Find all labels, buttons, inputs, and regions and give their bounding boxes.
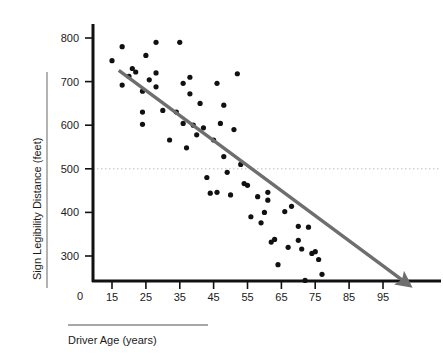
- x-tick-label-55: 55: [241, 291, 253, 303]
- scatter-point: [245, 183, 250, 188]
- x-tick-label-95: 95: [377, 291, 389, 303]
- scatter-point: [208, 191, 213, 196]
- scatter-point: [296, 238, 301, 243]
- scatter-point: [265, 198, 270, 203]
- scatter-point: [302, 278, 307, 283]
- scatter-point: [214, 190, 219, 195]
- scatter-point: [184, 145, 189, 150]
- scatter-point: [306, 225, 311, 230]
- scatter-point: [228, 192, 233, 197]
- x-tick-label-35: 35: [174, 291, 186, 303]
- scatter-point: [255, 194, 260, 199]
- x-tick-label-25: 25: [140, 291, 152, 303]
- y-tick-label-400: 400: [61, 206, 79, 218]
- scatter-point: [289, 204, 294, 209]
- x-tick-label-65: 65: [275, 291, 287, 303]
- y-tick-label-500: 500: [61, 163, 79, 175]
- scatter-point: [187, 91, 192, 96]
- scatter-point: [218, 121, 223, 126]
- scatter-point: [262, 210, 267, 215]
- y-tick-label-800: 800: [61, 32, 79, 44]
- scatter-point: [167, 137, 172, 142]
- scatter-point: [316, 257, 321, 262]
- y-tick-label-600: 600: [61, 119, 79, 131]
- scatter-point: [221, 154, 226, 159]
- scatter-point: [258, 220, 263, 225]
- scatter-point: [153, 40, 158, 45]
- x-tick-label-85: 85: [343, 291, 355, 303]
- y-tick-label-300: 300: [61, 250, 79, 262]
- scatter-point: [120, 44, 125, 49]
- scatter-point: [299, 246, 304, 251]
- x-axis-title: Driver Age (years): [68, 334, 157, 346]
- chart-background: [0, 0, 443, 357]
- scatter-point: [140, 110, 145, 115]
- x-tick-label-75: 75: [309, 291, 321, 303]
- scatter-point: [194, 132, 199, 137]
- scatter-point: [319, 272, 324, 277]
- scatter-point: [133, 69, 138, 74]
- scatter-point: [204, 175, 209, 180]
- scatter-point: [153, 84, 158, 89]
- chart-canvas: 800 700 600 500 400 300 0 15 25 35 45 55…: [0, 0, 443, 357]
- scatter-point: [286, 245, 291, 250]
- scatter-point: [248, 214, 253, 219]
- scatter-point: [147, 77, 152, 82]
- y-tick-label-700: 700: [61, 76, 79, 88]
- scatter-point: [109, 58, 114, 63]
- scatter-point: [272, 237, 277, 242]
- scatter-point: [275, 262, 280, 267]
- scatter-point: [181, 121, 186, 126]
- scatter-point: [160, 108, 165, 113]
- scatter-point: [235, 71, 240, 76]
- scatter-point: [120, 82, 125, 87]
- scatter-point: [214, 81, 219, 86]
- scatter-plot-figure: 800 700 600 500 400 300 0 15 25 35 45 55…: [0, 0, 443, 357]
- scatter-point: [282, 209, 287, 214]
- scatter-point: [221, 103, 226, 108]
- y-axis-title: Sign Legibility Distance (feet): [31, 138, 43, 280]
- scatter-point: [187, 75, 192, 80]
- origin-label-zero: 0: [77, 290, 83, 302]
- scatter-point: [313, 249, 318, 254]
- scatter-point: [177, 40, 182, 45]
- scatter-point: [140, 122, 145, 127]
- scatter-point: [143, 53, 148, 58]
- x-tick-label-45: 45: [207, 291, 219, 303]
- scatter-point: [265, 190, 270, 195]
- scatter-point: [296, 224, 301, 229]
- scatter-point: [153, 70, 158, 75]
- scatter-point: [197, 101, 202, 106]
- scatter-point: [181, 81, 186, 86]
- scatter-point: [225, 170, 230, 175]
- scatter-point: [231, 127, 236, 132]
- x-tick-label-15: 15: [106, 291, 118, 303]
